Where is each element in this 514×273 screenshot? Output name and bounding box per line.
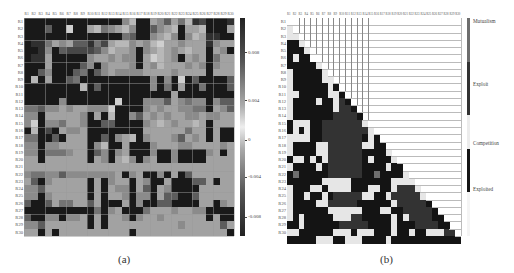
y-tick-label: R21 [276, 164, 286, 169]
y-tick-label: R6 [276, 55, 286, 60]
legend-segment [467, 115, 470, 149]
colorbar-tick: 0 [245, 137, 251, 142]
y-tick-label: R25 [13, 193, 23, 198]
x-tick-label: R7 [67, 12, 71, 16]
y-tick-label: R24 [13, 186, 23, 191]
y-tick-label: R11 [13, 92, 23, 97]
x-tick-label: R12 [351, 12, 356, 16]
y-tick-label: R15 [276, 121, 286, 126]
grid-line [24, 236, 234, 237]
grid-line [299, 40, 461, 41]
grid-line [24, 127, 234, 128]
x-tick-label: R24 [186, 12, 192, 16]
colorbar-tick: -0.004 [245, 174, 261, 179]
x-tick-label: R26 [432, 12, 437, 16]
x-tick-label: R18 [386, 12, 391, 16]
y-tick-label: R17 [13, 135, 23, 140]
x-tick-label: R18 [144, 12, 150, 16]
x-tick-label: R1 [287, 12, 291, 16]
x-tick-label: R3 [39, 12, 43, 16]
y-tick-label: R30 [13, 230, 23, 235]
y-tick-label: R16 [13, 128, 23, 133]
y-tick-label: R17 [276, 135, 286, 140]
grid-line [333, 18, 334, 76]
y-tick-label: R24 [276, 186, 286, 191]
y-tick-label: R25 [276, 193, 286, 198]
heatmap-b [287, 18, 461, 236]
x-tick-label: R12 [102, 12, 108, 16]
y-tick-label: R30 [276, 230, 286, 235]
x-tick-label: R5 [53, 12, 57, 16]
y-tick-label: R20 [276, 157, 286, 162]
x-tick-label: R10 [339, 12, 344, 16]
x-tick-label: R11 [345, 12, 350, 16]
y-tick-label: R22 [13, 172, 23, 177]
x-tick-label: R22 [172, 12, 178, 16]
y-tick-label: R6 [13, 55, 23, 60]
x-tick-label: R6 [316, 12, 320, 16]
y-tick-label: R7 [13, 63, 23, 68]
x-tick-label: R30 [228, 12, 234, 16]
x-tick-label: R25 [193, 12, 199, 16]
y-tick-label: R13 [13, 106, 23, 111]
x-tick-label: R20 [397, 12, 402, 16]
y-tick-label: R3 [13, 34, 23, 39]
grid-line [333, 83, 461, 84]
x-tick-label: R10 [88, 12, 94, 16]
grid-line [310, 18, 311, 47]
y-tick-label: R27 [13, 208, 23, 213]
x-tick-label: R21 [403, 12, 408, 16]
y-tick-label: R22 [276, 172, 286, 177]
x-tick-label: R13 [109, 12, 115, 16]
y-tick-label: R7 [276, 63, 286, 68]
grid-line [449, 229, 461, 230]
x-tick-label: R6 [60, 12, 64, 16]
x-tick-label: R14 [116, 12, 122, 16]
x-tick-label: R30 [455, 12, 460, 16]
caption-a: (a) [118, 253, 130, 265]
y-tick-label: R10 [276, 84, 286, 89]
y-tick-label: R9 [276, 77, 286, 82]
grid-line [328, 18, 329, 69]
grid-line [287, 25, 461, 26]
legend-segment [467, 149, 470, 193]
grid-line [368, 18, 369, 120]
x-tick-label: R20 [158, 12, 164, 16]
caption-b: (b) [380, 253, 393, 265]
grid-line [391, 156, 461, 157]
x-tick-label: R7 [322, 12, 326, 16]
y-tick-label: R13 [276, 106, 286, 111]
grid-line [420, 192, 461, 193]
grid-line [409, 178, 461, 179]
legend-segment [467, 192, 470, 236]
x-tick-label: R25 [426, 12, 431, 16]
y-tick-label: R15 [13, 121, 23, 126]
x-tick-label: R23 [415, 12, 420, 16]
y-tick-label: R5 [276, 48, 286, 53]
y-tick-label: R19 [276, 150, 286, 155]
y-tick-label: R26 [276, 201, 286, 206]
legend-bar-b [467, 18, 470, 236]
legend-label-mutualism: Mutualism [473, 18, 495, 24]
y-tick-label: R19 [13, 150, 23, 155]
grid-line [316, 62, 461, 63]
legend-label-exploit: Exploit [473, 81, 488, 87]
x-tick-label: R15 [123, 12, 129, 16]
x-tick-label: R11 [95, 12, 101, 16]
legend-segment [467, 62, 470, 115]
grid-line [362, 18, 363, 112]
y-tick-label: R18 [276, 143, 286, 148]
grid-line [24, 192, 234, 193]
grid-line [24, 171, 234, 172]
x-tick-label: R19 [391, 12, 396, 16]
x-tick-label: R24 [420, 12, 425, 16]
x-tick-label: R2 [32, 12, 36, 16]
grid-line [234, 18, 235, 236]
grid-line [345, 18, 346, 91]
y-tick-label: R23 [276, 179, 286, 184]
grid-line [351, 18, 352, 98]
y-tick-label: R1 [13, 19, 23, 24]
x-tick-label: R14 [362, 12, 367, 16]
grid-line [213, 18, 214, 236]
x-tick-label: R26 [200, 12, 206, 16]
